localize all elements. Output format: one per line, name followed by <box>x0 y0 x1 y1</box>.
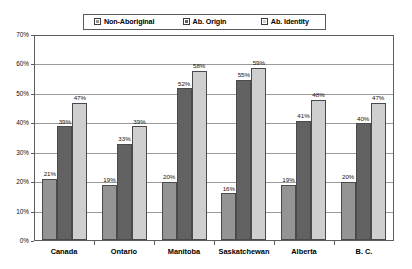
bar-group: 19%33%39% <box>95 36 155 240</box>
bar[interactable] <box>311 100 326 240</box>
bar-value-label: 47% <box>74 95 86 101</box>
legend-swatch-icon <box>183 18 190 25</box>
legend-item-label: Ab. Origin <box>193 18 227 25</box>
bar-value-label: 39% <box>59 119 71 125</box>
bar-wrapper: 55% <box>236 36 251 240</box>
x-axis-category-label: Saskatchewan <box>219 248 270 255</box>
bar[interactable] <box>102 185 117 240</box>
bar-wrapper: 41% <box>296 36 311 240</box>
bar[interactable] <box>356 123 371 240</box>
bar-wrapper: 33% <box>117 36 132 240</box>
x-axis-category-label: Manitoba <box>168 248 200 255</box>
bar-chart: Non-AboriginalAb. OriginAb. Identity 0%1… <box>0 0 412 269</box>
bar[interactable] <box>192 71 207 240</box>
bar-group: 20%40%47% <box>333 36 393 240</box>
x-axis-separator-tick <box>214 241 215 245</box>
bar-groups: 21%39%47%19%33%39%20%52%58%16%55%59%19%4… <box>35 36 393 240</box>
y-axis-tick-label: 60% <box>16 61 29 67</box>
bar-wrapper: 47% <box>371 36 386 240</box>
x-axis-category-label: Ontario <box>111 248 137 255</box>
bar[interactable] <box>221 193 236 240</box>
bar-group: 16%55%59% <box>214 36 274 240</box>
bar-value-label: 55% <box>238 72 250 78</box>
bar-value-label: 47% <box>372 95 384 101</box>
bar-wrapper: 21% <box>42 36 57 240</box>
bar[interactable] <box>341 182 356 240</box>
bar-wrapper: 59% <box>251 36 266 240</box>
bar[interactable] <box>72 103 87 240</box>
bar[interactable] <box>251 68 266 240</box>
legend-item-label: Non-Aboriginal <box>104 18 155 25</box>
bar-value-label: 59% <box>253 60 265 66</box>
y-axis-tick-label: 20% <box>16 179 29 185</box>
bar-wrapper: 52% <box>177 36 192 240</box>
y-axis-tick-label: 40% <box>16 120 29 126</box>
x-axis-category-label: Alberta <box>291 248 316 255</box>
x-axis: CanadaOntarioManitobaSaskatchewanAlberta… <box>34 241 394 265</box>
legend-item[interactable]: Non-Aboriginal <box>84 18 164 25</box>
bar-wrapper: 20% <box>341 36 356 240</box>
bar-value-label: 58% <box>193 63 205 69</box>
legend-item[interactable]: Ab. Origin <box>164 18 244 25</box>
bar-value-label: 39% <box>133 119 145 125</box>
legend-swatch-icon <box>94 18 101 25</box>
bar-value-label: 16% <box>223 186 235 192</box>
bar-wrapper: 19% <box>281 36 296 240</box>
legend-item[interactable]: Ab. Identity <box>245 18 325 25</box>
x-axis-separator-tick <box>274 241 275 245</box>
bar-value-label: 33% <box>118 136 130 142</box>
bar-wrapper: 39% <box>57 36 72 240</box>
bar[interactable] <box>177 88 192 240</box>
bar-wrapper: 16% <box>221 36 236 240</box>
bar-group: 21%39%47% <box>35 36 95 240</box>
x-axis-separator-tick <box>334 241 335 245</box>
bar-value-label: 20% <box>163 174 175 180</box>
bar-wrapper: 19% <box>102 36 117 240</box>
bar[interactable] <box>296 121 311 240</box>
y-axis-tick-label: 0% <box>20 238 29 244</box>
bar-group: 20%52%58% <box>154 36 214 240</box>
bar-value-label: 21% <box>44 171 56 177</box>
y-axis-tick-label: 30% <box>16 150 29 156</box>
bar-value-label: 48% <box>312 92 324 98</box>
bar-value-label: 19% <box>103 177 115 183</box>
bar[interactable] <box>42 179 57 240</box>
bar-value-label: 41% <box>297 113 309 119</box>
bar-wrapper: 58% <box>192 36 207 240</box>
x-axis-separator-tick <box>154 241 155 245</box>
bar-value-label: 20% <box>342 174 354 180</box>
x-axis-category-label: B. C. <box>356 248 373 255</box>
x-axis-category-label: Canada <box>51 248 78 255</box>
bar[interactable] <box>132 126 147 240</box>
legend-item-label: Ab. Identity <box>271 18 309 25</box>
bar[interactable] <box>281 185 296 240</box>
bar-group: 19%41%48% <box>274 36 334 240</box>
legend-swatch-icon <box>261 18 268 25</box>
bar-wrapper: 48% <box>311 36 326 240</box>
bar-value-label: 52% <box>178 81 190 87</box>
bar-value-label: 19% <box>282 177 294 183</box>
bar[interactable] <box>371 103 386 240</box>
bar[interactable] <box>57 126 72 240</box>
chart-legend: Non-AboriginalAb. OriginAb. Identity <box>83 14 326 30</box>
bar-wrapper: 20% <box>162 36 177 240</box>
bar[interactable] <box>236 80 251 240</box>
y-axis-tick-label: 70% <box>16 32 29 38</box>
bar-wrapper: 39% <box>132 36 147 240</box>
bar[interactable] <box>162 182 177 240</box>
x-axis-separator-tick <box>94 241 95 245</box>
bar-wrapper: 47% <box>72 36 87 240</box>
y-axis-tick-label: 50% <box>16 91 29 97</box>
y-axis: 0%10%20%30%40%50%60%70% <box>0 35 34 241</box>
bar-value-label: 40% <box>357 116 369 122</box>
y-axis-tick-label: 10% <box>16 208 29 214</box>
bar-wrapper: 40% <box>356 36 371 240</box>
bar[interactable] <box>117 144 132 240</box>
